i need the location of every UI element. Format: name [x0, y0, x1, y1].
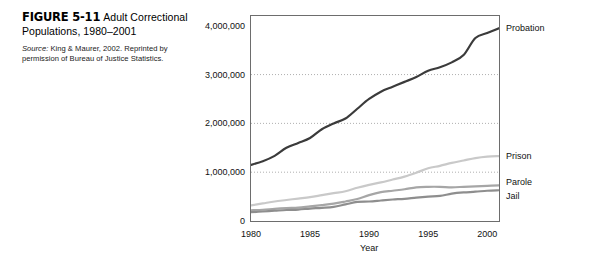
y-axis-tick-label: 4,000,000	[175, 21, 245, 31]
y-axis-tick-label: 3,000,000	[175, 70, 245, 80]
series-line-parole	[251, 185, 499, 210]
x-axis-tick-label: 1990	[339, 229, 399, 239]
x-axis-tick-label: 2000	[457, 229, 517, 239]
x-axis-tick-label: 1995	[398, 229, 458, 239]
plot-area	[250, 15, 500, 222]
line-chart: 01,000,0002,000,0003,000,0004,000,000 19…	[0, 0, 605, 276]
series-label-jail: Jail	[506, 191, 520, 201]
plot-svg	[251, 16, 499, 221]
y-axis-tick-label: 1,000,000	[175, 167, 245, 177]
y-axis-tick-label: 0	[175, 216, 245, 226]
series-label-prison: Prison	[506, 151, 532, 161]
x-axis-label: Year	[329, 243, 409, 253]
y-axis-tick-label: 2,000,000	[175, 118, 245, 128]
series-line-probation	[251, 28, 499, 165]
x-axis-tick-label: 1985	[280, 229, 340, 239]
x-axis-tick-label: 1980	[221, 229, 281, 239]
series-label-parole: Parole	[506, 177, 532, 187]
series-line-prison	[251, 156, 499, 205]
series-label-probation: Probation	[506, 23, 545, 33]
